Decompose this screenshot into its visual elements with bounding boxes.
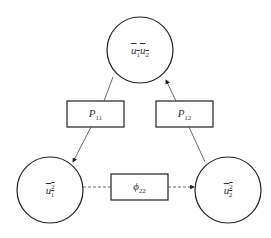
box-p11-label: P11 <box>67 108 124 122</box>
box-phi22-label: ϕ22 <box>111 181 168 195</box>
node-right-label: u22 <box>213 184 243 199</box>
diagram-canvas <box>0 0 271 238</box>
edge-top-p11 <box>104 77 113 101</box>
node-top-label: u1u2 <box>118 45 162 59</box>
edge-p12-top <box>166 80 176 101</box>
box-p12-label: P12 <box>156 108 213 122</box>
node-left-label: u21 <box>35 184 65 199</box>
edge-right-p12 <box>189 127 205 162</box>
edge-p11-left <box>73 127 91 162</box>
